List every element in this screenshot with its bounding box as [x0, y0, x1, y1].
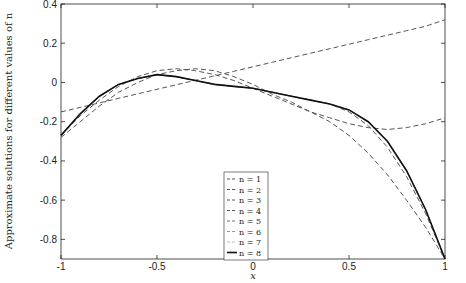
legend-entry: n = 7 — [239, 238, 261, 247]
x-axis-label: x — [250, 270, 256, 281]
x-tick-label: 1 — [442, 261, 448, 272]
x-tick-label: -1 — [57, 261, 66, 272]
x-tick-label: 0.5 — [342, 261, 356, 272]
y-tick-label: -0.4 — [40, 155, 58, 166]
y-tick-label: 0 — [51, 77, 57, 88]
x-tick-label: -0.5 — [148, 261, 166, 272]
y-axis-label: Approximate solutions for different valu… — [3, 12, 14, 250]
legend-entry: n = 1 — [239, 175, 261, 184]
legend-entry: n = 2 — [239, 186, 261, 195]
y-tick-label: -0.8 — [40, 234, 58, 245]
y-tick-label: 0.2 — [43, 38, 57, 49]
legend: n = 1n = 2n = 3n = 4n = 5n = 6n = 7n = 8 — [224, 172, 268, 260]
legend-entry: n = 6 — [239, 228, 261, 237]
legend-entry: n = 8 — [239, 249, 261, 258]
y-tick-label: 0.4 — [43, 0, 57, 10]
legend-entry: n = 3 — [239, 196, 261, 205]
y-tick-label: -0.2 — [40, 116, 58, 127]
chart: -1-0.500.51 0.40.20-0.2-0.4-0.6-0.8 x Ap… — [0, 0, 466, 283]
y-tick-label: -0.6 — [40, 195, 58, 206]
legend-entry: n = 5 — [239, 217, 261, 226]
legend-entry: n = 4 — [239, 207, 261, 216]
